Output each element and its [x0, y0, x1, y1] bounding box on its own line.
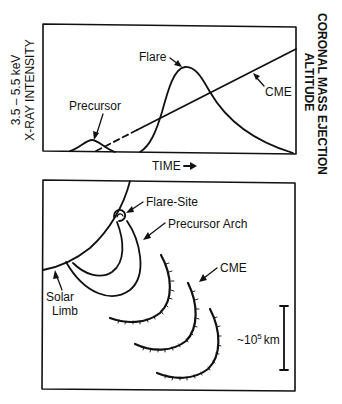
cme-arc-2-hatch: [143, 291, 199, 352]
inner-arch: [73, 222, 122, 276]
bottom-diagram-frame: [42, 180, 295, 391]
right-axis-label-line2: ALTITUDE: [302, 53, 316, 111]
precursor-label: Precursor: [69, 99, 121, 113]
cme-arc-2: [135, 283, 199, 352]
cme-arrow-head-bottom: [199, 274, 207, 282]
cme-label-top: CME: [265, 85, 292, 99]
solar-limb: [43, 181, 130, 270]
scale-label-unit: km: [264, 333, 280, 347]
flare-site-arrow-head: [126, 206, 134, 213]
cme-line-dashed: [96, 130, 137, 151]
y-axis-label-line1: 3.5 – 5.5 keV: [9, 55, 23, 126]
cme-arc-3: [157, 309, 221, 380]
precursor-arch: [66, 221, 140, 296]
flare-curve: [140, 67, 293, 153]
cme-arc-3-line: [157, 309, 218, 378]
bottom-diagram: Flare-Site Precursor Arch CME Solar Limb…: [42, 180, 295, 391]
solar-limb-label-line2: Limb: [52, 304, 78, 318]
solar-limb-arrow-head: [53, 270, 59, 279]
scale-bar: [280, 306, 288, 370]
scale-label: ~105km: [237, 332, 280, 347]
precursor-arch-arrow-head: [143, 232, 151, 240]
right-axis-label-line1: CORONAL MASS EJECTION: [315, 13, 329, 175]
solar-limb-label-line1: Solar: [46, 290, 74, 304]
precursor-arch-arrow-line: [148, 223, 165, 236]
cme-label-bottom: CME: [220, 261, 247, 275]
precursor-arch-label: Precursor Arch: [168, 217, 247, 231]
precursor-curve: [70, 140, 115, 152]
cme-arc-1: [110, 255, 174, 324]
cme-arrow-head-top: [253, 73, 260, 80]
y-axis-label: 3.5 – 5.5 keV X-RAY INTENSITY: [9, 39, 37, 141]
scale-label-exp: 5: [257, 332, 262, 341]
x-axis-label: TIME: [152, 159, 181, 173]
flare-site-label: Flare-Site: [146, 195, 198, 209]
flare-arrow-head: [174, 60, 182, 67]
cme-arrow-line-bottom: [204, 268, 217, 278]
right-axis-label: CORONAL MASS EJECTION ALTITUDE: [302, 13, 329, 175]
top-plot: Precursor Flare CME 3.5 – 5.5 keV X-RAY …: [9, 13, 329, 175]
flare-label: Flare: [139, 50, 167, 64]
time-arrow-head: [190, 162, 197, 170]
y-axis-label-line2: X-RAY INTENSITY: [23, 39, 37, 141]
flare-site-inner: [117, 214, 123, 217]
precursor-arrow-head: [93, 131, 99, 140]
cme-arc-1-hatch: [118, 263, 174, 324]
figure-canvas: Precursor Flare CME 3.5 – 5.5 keV X-RAY …: [0, 0, 342, 404]
scale-label-base: ~10: [237, 333, 258, 347]
